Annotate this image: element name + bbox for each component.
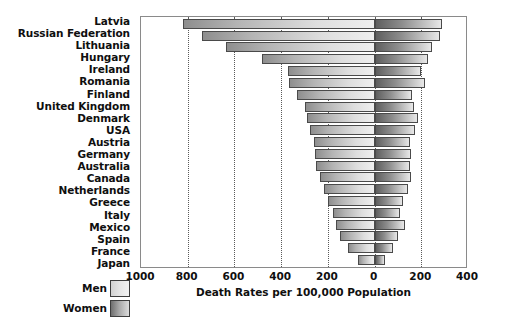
table-row xyxy=(141,66,466,76)
bar-women xyxy=(375,231,398,241)
table-row xyxy=(141,137,466,147)
category-label: Romania xyxy=(79,76,134,86)
bar-men xyxy=(310,125,374,135)
table-row xyxy=(141,220,466,230)
bar-men xyxy=(262,54,374,64)
bar-rows xyxy=(141,17,466,267)
bar-men xyxy=(297,90,374,100)
bar-women xyxy=(375,208,401,218)
category-label: Japan xyxy=(97,258,134,268)
bar-men xyxy=(333,208,375,218)
category-label: Russian Federation xyxy=(18,28,134,38)
table-row xyxy=(141,149,466,159)
table-row xyxy=(141,196,466,206)
category-label: Australia xyxy=(77,161,134,171)
table-row xyxy=(141,19,466,29)
bar-men xyxy=(289,78,374,88)
bar-women xyxy=(375,54,429,64)
bar-women xyxy=(375,243,394,253)
x-tick-label: 400 xyxy=(269,270,291,282)
category-label: Spain xyxy=(97,234,134,244)
table-row xyxy=(141,161,466,171)
bar-men xyxy=(305,102,375,112)
bar-men xyxy=(315,149,375,159)
table-row xyxy=(141,231,466,241)
bar-women xyxy=(375,137,410,147)
category-label: Canada xyxy=(87,173,134,183)
bar-men xyxy=(314,137,375,147)
x-tick-label: 200 xyxy=(316,270,338,282)
bar-women xyxy=(375,125,416,135)
bar-women xyxy=(375,90,412,100)
category-axis-labels: LatviaRussian FederationLithuaniaHungary… xyxy=(0,16,134,268)
category-label: Hungary xyxy=(80,52,134,62)
bar-women xyxy=(375,196,403,206)
table-row xyxy=(141,208,466,218)
table-row xyxy=(141,243,466,253)
bar-women xyxy=(375,31,440,41)
bar-women xyxy=(375,220,405,230)
x-tick-label: 600 xyxy=(222,270,244,282)
legend-label-men: Men xyxy=(82,282,107,294)
table-row xyxy=(141,90,466,100)
category-label: Austria xyxy=(88,137,134,147)
bar-men xyxy=(348,243,375,253)
bar-men xyxy=(202,31,375,41)
legend-label-women: Women xyxy=(63,302,107,314)
category-label: Mexico xyxy=(89,222,134,232)
table-row xyxy=(141,42,466,52)
bar-women xyxy=(375,149,411,159)
bar-men xyxy=(328,196,375,206)
bar-women xyxy=(375,113,418,123)
legend-item-men: Men xyxy=(18,278,130,298)
bar-women xyxy=(375,102,415,112)
x-tick-label: 200 xyxy=(409,270,431,282)
value-axis-ticks: 10008006004002000200400 xyxy=(140,270,467,284)
table-row xyxy=(141,255,466,265)
bar-men xyxy=(336,220,375,230)
table-row xyxy=(141,184,466,194)
category-label: United Kingdom xyxy=(36,101,134,111)
bar-men xyxy=(307,113,375,123)
category-label: France xyxy=(91,246,134,256)
bar-men xyxy=(226,42,374,52)
category-label: Italy xyxy=(104,210,134,220)
bar-women xyxy=(375,255,386,265)
bar-women xyxy=(375,172,411,182)
bar-men xyxy=(320,172,375,182)
table-row xyxy=(141,172,466,182)
x-tick-label: 0 xyxy=(370,270,377,282)
category-label: Ireland xyxy=(89,64,134,74)
x-tick-label: 800 xyxy=(176,270,198,282)
category-label: Latvia xyxy=(94,16,134,26)
bar-women xyxy=(375,42,432,52)
bar-women xyxy=(375,161,410,171)
legend-item-women: Women xyxy=(18,298,130,318)
bar-men xyxy=(183,19,375,29)
category-label: Denmark xyxy=(77,113,134,123)
table-row xyxy=(141,102,466,112)
category-label: Netherlands xyxy=(58,185,134,195)
category-label: USA xyxy=(106,125,134,135)
bar-women xyxy=(375,66,422,76)
women-swatch-icon xyxy=(110,300,130,317)
bar-women xyxy=(375,78,425,88)
table-row xyxy=(141,125,466,135)
category-label: Greece xyxy=(89,197,134,207)
bar-men xyxy=(288,66,374,76)
category-label: Finland xyxy=(87,89,134,99)
x-axis-title: Death Rates per 100,000 Population xyxy=(140,286,467,298)
bar-women xyxy=(375,184,409,194)
men-swatch-icon xyxy=(110,280,130,297)
bar-women xyxy=(375,19,443,29)
x-tick-label: 400 xyxy=(456,270,478,282)
table-row xyxy=(141,54,466,64)
category-label: Lithuania xyxy=(75,40,134,50)
table-row xyxy=(141,31,466,41)
table-row xyxy=(141,78,466,88)
bar-men xyxy=(316,161,374,171)
category-label: Germany xyxy=(77,149,134,159)
chart-legend: Men Women xyxy=(18,278,130,318)
plot-area xyxy=(140,16,467,268)
table-row xyxy=(141,113,466,123)
